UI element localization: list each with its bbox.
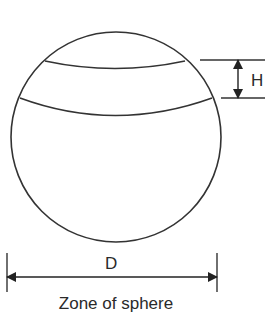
zone-of-sphere-diagram: H D Zone of sphere <box>0 0 273 324</box>
sphere-outline <box>11 32 221 242</box>
height-dimension: H <box>200 60 265 98</box>
diagram-canvas: H D <box>0 0 273 324</box>
diameter-label: D <box>105 254 117 273</box>
zone-upper-boundary <box>45 61 185 69</box>
height-label: H <box>251 71 263 90</box>
diagram-caption: Zone of sphere <box>0 294 232 314</box>
diameter-dimension: D <box>7 253 217 292</box>
zone-lower-boundary <box>20 98 212 116</box>
